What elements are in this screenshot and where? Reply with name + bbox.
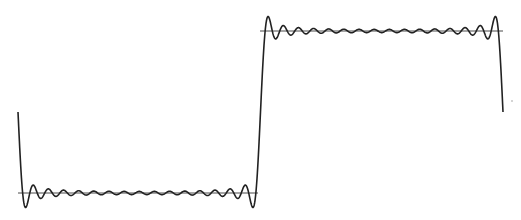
- fourier-square-wave-chart: [0, 0, 521, 220]
- scan-artifact-dot: [511, 100, 512, 101]
- fourier-partial-sum-curve: [18, 16, 503, 207]
